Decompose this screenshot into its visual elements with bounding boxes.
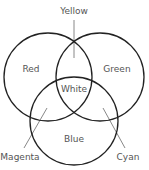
venn-diagram: Yellow Red Green White Blue Magenta Cyan (0, 0, 149, 170)
cyan-label: Cyan (117, 152, 140, 162)
cyan-leader-line (103, 108, 125, 148)
yellow-label: Yellow (59, 6, 88, 16)
blue-label: Blue (64, 134, 84, 144)
red-label: Red (22, 64, 39, 74)
magenta-label: Magenta (0, 152, 39, 162)
green-label: Green (103, 64, 130, 74)
venn-svg: Yellow Red Green White Blue Magenta Cyan (0, 0, 149, 170)
white-label: White (61, 84, 88, 94)
